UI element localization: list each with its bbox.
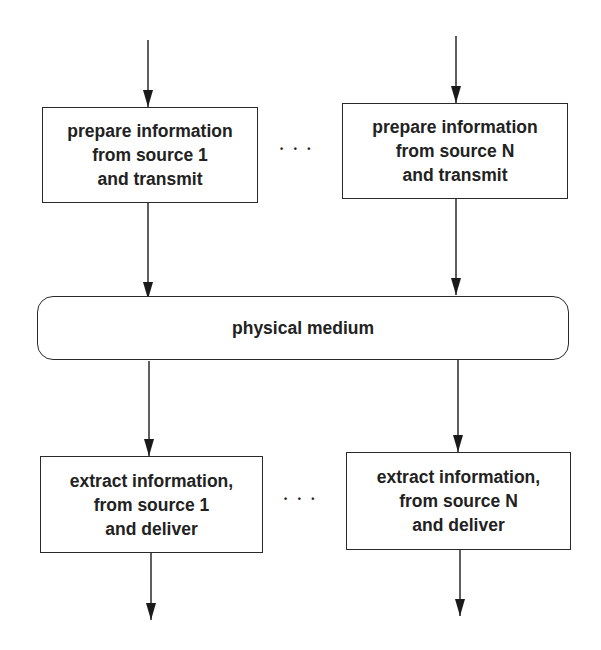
bottom-ellipsis: • • • — [284, 494, 318, 504]
box-line: and transmit — [402, 163, 507, 187]
box-line: from source 1 — [94, 493, 210, 517]
physical-medium-label: physical medium — [232, 316, 374, 340]
box-line: and deliver — [412, 513, 504, 537]
box-line: from source N — [399, 489, 518, 513]
physical-medium-box: physical medium — [37, 296, 569, 360]
box-line: and transmit — [97, 167, 202, 191]
top-ellipsis: • • • — [280, 144, 314, 154]
extract-source-n-box: extract information, from source N and d… — [346, 452, 571, 550]
box-line: prepare information — [67, 119, 232, 143]
box-line: extract information, — [377, 465, 540, 489]
multiplexing-diagram: prepare information from source 1 and tr… — [0, 0, 601, 650]
box-line: extract information, — [70, 469, 233, 493]
box-line: from source N — [396, 139, 515, 163]
extract-source-1-box: extract information, from source 1 and d… — [40, 456, 263, 553]
box-line: and deliver — [105, 517, 197, 541]
prepare-source-n-box: prepare information from source N and tr… — [342, 103, 568, 199]
box-line: prepare information — [372, 115, 537, 139]
box-line: from source 1 — [92, 143, 208, 167]
prepare-source-1-box: prepare information from source 1 and tr… — [42, 107, 258, 203]
